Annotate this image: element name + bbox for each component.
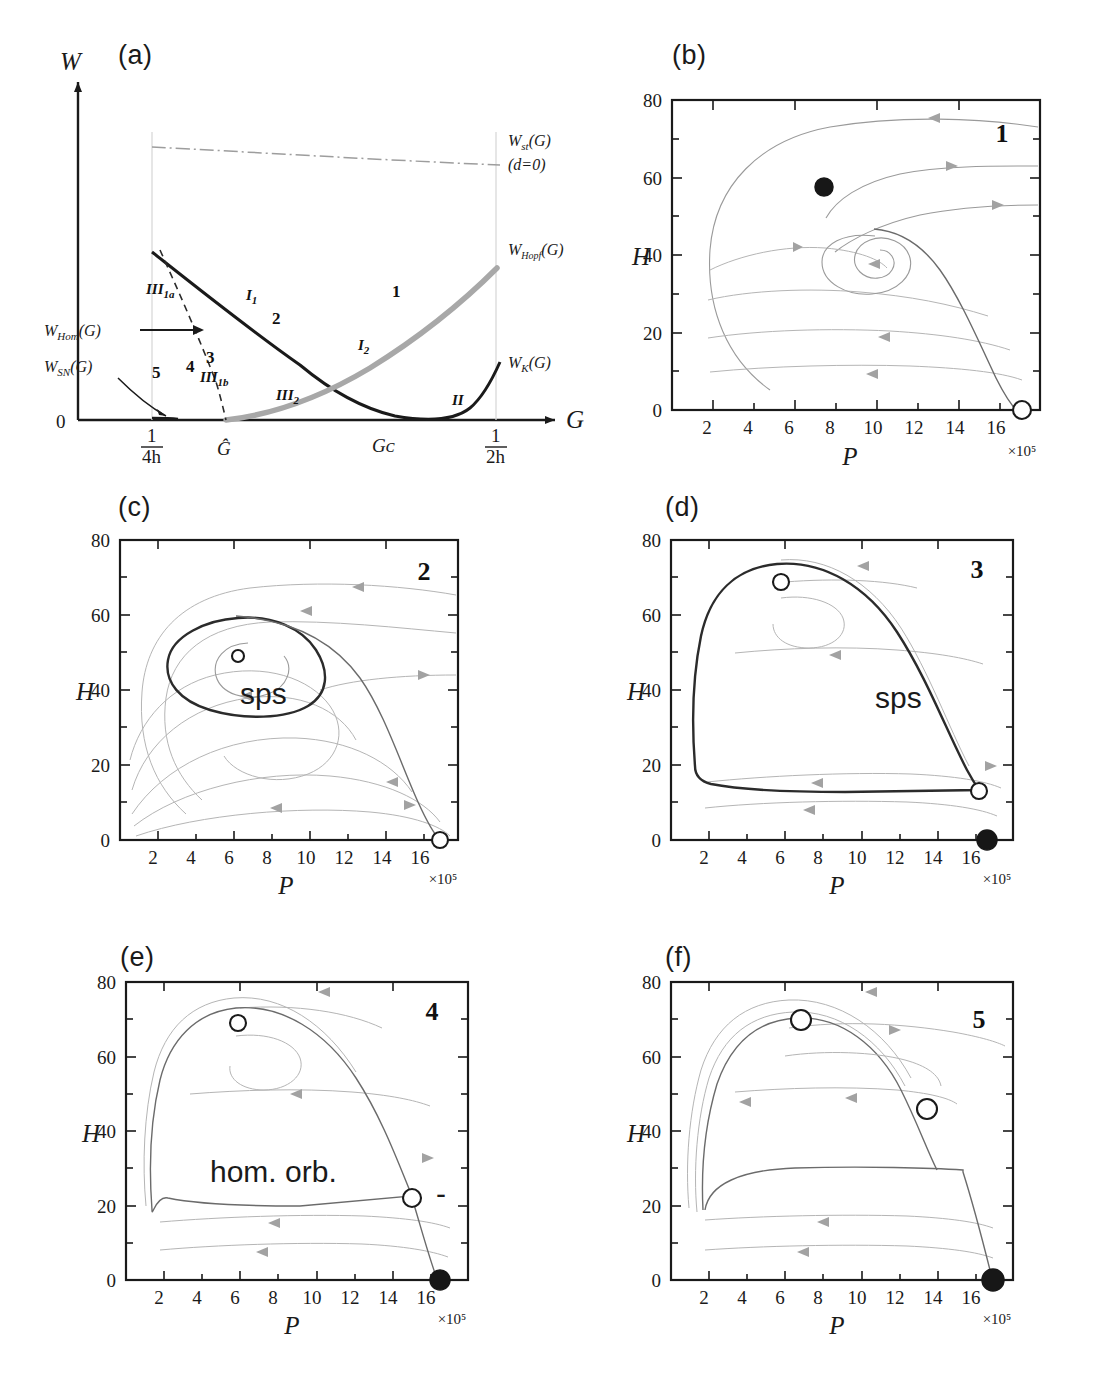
panel-f-trajectories <box>688 1000 1006 1274</box>
panel-f-ytick-0: 0 <box>652 1270 662 1291</box>
panel-b: (b) 2 4 6 8 10 12 14 <box>610 0 1098 480</box>
panel-b-xtick-16: 16 <box>987 417 1006 438</box>
panel-f-xtick-8: 8 <box>813 1287 823 1308</box>
panel-f-frame <box>671 982 1013 1280</box>
panel-c-ytick-0: 0 <box>101 830 111 851</box>
panel-b-axial-equilibrium-marker <box>1013 401 1031 419</box>
panel-e-x-multiplier: ×10⁵ <box>438 1311 467 1327</box>
panel-c-ytick-80: 80 <box>91 530 110 551</box>
panel-c-annotation-sps: sps <box>240 677 287 710</box>
curve-w-sn <box>152 418 178 419</box>
panel-e-annotation-dash: - <box>436 1177 446 1210</box>
label-w-hopf: WHopf(G) <box>508 241 564 261</box>
svg-text:Wst(G): Wst(G) <box>508 132 551 152</box>
panel-c-xtick-10: 10 <box>297 847 316 868</box>
panel-b-xtick-4: 4 <box>743 417 753 438</box>
panel-f-xticks <box>709 982 976 1280</box>
panel-f-saddle-marker <box>917 1099 937 1119</box>
panel-c-unstable-focus-marker <box>232 650 244 662</box>
panel-b-xtick-10: 10 <box>864 417 883 438</box>
panel-f-xtick-14: 14 <box>924 1287 944 1308</box>
panel-a-plot: W G 0 1 4h Ĝ Gᴄ 1 2h Wst(G) (d=0) WHopf(… <box>0 0 610 480</box>
panel-b-xtick-14: 14 <box>946 417 966 438</box>
panel-e-flow-arrows <box>256 987 434 1257</box>
region-label-I1: I1 <box>245 287 257 306</box>
panel-e-xtick-14: 14 <box>379 1287 399 1308</box>
panel-f-y-axis-label: H <box>626 1120 647 1147</box>
panel-c-xtick-4: 4 <box>186 847 196 868</box>
panel-d-xtick-4: 4 <box>737 847 747 868</box>
panel-f-plot: 2 4 6 8 10 12 14 16 0 20 40 60 80 P H ×1… <box>545 920 1098 1375</box>
panel-d-annotation-sps: sps <box>875 681 922 714</box>
panel-e-xtick-6: 6 <box>230 1287 240 1308</box>
panel-f: (f) 2 4 6 8 10 12 14 16 0 2 <box>545 920 1098 1375</box>
panel-e-ytick-20: 20 <box>97 1196 116 1217</box>
panel-f-yticks <box>671 982 1013 1280</box>
panel-c-xtick-2: 2 <box>148 847 158 868</box>
panel-e-x-axis-label: P <box>283 1312 299 1339</box>
panel-f-xtick-6: 6 <box>775 1287 785 1308</box>
region-label-2: 2 <box>272 309 281 328</box>
panel-d-frame <box>671 540 1013 840</box>
panel-b-xtick-8: 8 <box>825 417 835 438</box>
panel-f-region-number: 5 <box>973 1005 986 1034</box>
panel-e-region-number: 4 <box>426 997 439 1026</box>
panel-d-x-multiplier: ×10⁵ <box>983 871 1012 887</box>
panel-d-ytick-0: 0 <box>652 830 662 851</box>
panel-c-axial-equilibrium-marker <box>432 832 448 848</box>
panel-e-saddle-marker <box>403 1189 421 1207</box>
panel-f-xtick-10: 10 <box>848 1287 867 1308</box>
label-w-st: Wst(G) (d=0) <box>508 132 551 174</box>
panel-d-tag: (d) <box>665 492 700 523</box>
panel-a-origin-label: 0 <box>56 411 66 432</box>
panel-f-stable-node-marker <box>982 1269 1004 1291</box>
panel-d-stable-node-marker <box>977 830 997 850</box>
panel-b-x-multiplier: ×10⁵ <box>1008 443 1037 459</box>
panel-d-yticks <box>671 540 1013 840</box>
region-label-III1b: III1b <box>199 369 229 388</box>
panel-b-y-axis-label: H <box>631 243 652 270</box>
panel-f-x-axis-label: P <box>828 1312 844 1339</box>
panel-d-xtick-16: 16 <box>962 847 981 868</box>
panel-e-xtick-16: 16 <box>417 1287 436 1308</box>
panel-e-xticks <box>164 982 431 1280</box>
panel-f-xtick-2: 2 <box>699 1287 709 1308</box>
panel-c-xtick-6: 6 <box>224 847 234 868</box>
panel-d-ytick-60: 60 <box>642 605 661 626</box>
panel-b-yticks <box>672 100 1040 410</box>
panel-e-tag: (e) <box>120 942 155 973</box>
panel-a-xtick-1-over-2h: 1 2h <box>485 425 507 467</box>
label-w-sn: WSN(G) <box>44 358 92 378</box>
panel-c-xtick-12: 12 <box>335 847 354 868</box>
region-label-3: 3 <box>206 348 215 367</box>
panel-a-xtick-1-over-4h: 1 4h <box>141 425 163 467</box>
label-w-k: WK(G) <box>508 354 551 374</box>
panel-f-unstable-focus-marker <box>791 1010 811 1030</box>
panel-c-x-axis-label: P <box>277 872 293 899</box>
svg-text:2h: 2h <box>486 446 506 467</box>
panel-f-ytick-60: 60 <box>642 1047 661 1068</box>
region-label-III1a: III1a <box>145 281 175 300</box>
panel-b-ytick-60: 60 <box>643 168 662 189</box>
panel-d-x-axis-label: P <box>828 872 844 899</box>
panel-d-saddle-marker <box>971 783 987 799</box>
panel-b-ytick-0: 0 <box>653 400 663 421</box>
svg-text:1: 1 <box>147 425 157 446</box>
panel-c-x-multiplier: ×10⁵ <box>429 871 458 887</box>
panel-a-axes <box>74 82 555 424</box>
panel-e-annotation-hom-orb: hom. orb. <box>210 1155 337 1188</box>
svg-text:4h: 4h <box>142 446 162 467</box>
panel-d-plot: 2 4 6 8 10 12 14 16 0 20 40 60 80 P H ×1… <box>545 470 1098 930</box>
panel-c-tag: (c) <box>118 492 151 523</box>
panel-d-ytick-20: 20 <box>642 755 661 776</box>
panel-e-trajectories <box>144 998 450 1276</box>
panel-a-xtick-ghat: Ĝ <box>217 438 231 459</box>
panel-e-unstable-focus-marker <box>230 1015 246 1031</box>
panel-b-stable-focus-marker <box>815 178 833 196</box>
panel-b-ytick-20: 20 <box>643 323 662 344</box>
panel-d-unstable-focus-marker <box>773 574 789 590</box>
w-sn-arrow-icon <box>157 409 166 416</box>
panel-f-ytick-80: 80 <box>642 972 661 993</box>
panel-c-xtick-14: 14 <box>373 847 393 868</box>
panel-e-ytick-80: 80 <box>97 972 116 993</box>
